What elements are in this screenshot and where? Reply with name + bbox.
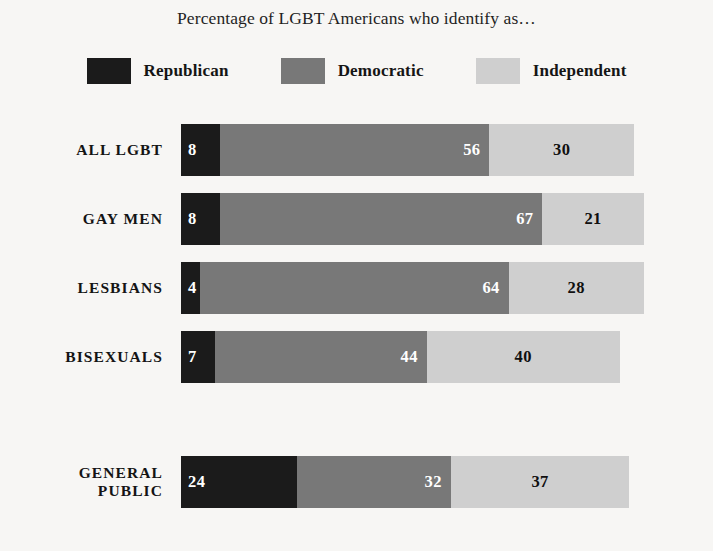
chart-legend: Republican Democratic Independent bbox=[0, 58, 713, 84]
bar-track: 243237 bbox=[181, 456, 629, 508]
legend-item-republican: Republican bbox=[87, 58, 229, 84]
bar-segment-independent: 37 bbox=[451, 456, 629, 508]
legend-swatch-republican bbox=[87, 58, 131, 84]
bar-segment-value: 56 bbox=[463, 140, 480, 160]
bar-segment-value: 24 bbox=[188, 472, 205, 492]
bar-row-label: LESBIANS bbox=[10, 279, 163, 297]
legend-swatch-independent bbox=[476, 58, 520, 84]
bar-segment-republican: 8 bbox=[181, 124, 220, 176]
bar-segment-value: 37 bbox=[451, 472, 629, 492]
legend-label-independent: Independent bbox=[533, 61, 627, 81]
bar-row-label: ALL LGBT bbox=[10, 141, 163, 159]
legend-item-independent: Independent bbox=[476, 58, 627, 84]
bar-row-label: GENERALPUBLIC bbox=[10, 464, 163, 501]
legend-swatch-democratic bbox=[281, 58, 325, 84]
bar-segment-value: 32 bbox=[425, 472, 442, 492]
legend-item-democratic: Democratic bbox=[281, 58, 424, 84]
bar-segment-independent: 21 bbox=[542, 193, 643, 245]
bar-segment-republican: 8 bbox=[181, 193, 220, 245]
legend-label-republican: Republican bbox=[144, 61, 229, 81]
bar-row: BISEXUALS74440 bbox=[0, 331, 713, 383]
bar-segment-republican: 4 bbox=[181, 262, 200, 314]
bar-row: GENERALPUBLIC243237 bbox=[0, 456, 713, 508]
bar-segment-value: 28 bbox=[509, 278, 644, 298]
bar-row-label: GAY MEN bbox=[10, 210, 163, 228]
bar-row: GAY MEN86721 bbox=[0, 193, 713, 245]
bar-segment-democratic: 64 bbox=[200, 262, 508, 314]
bar-segment-value: 7 bbox=[188, 347, 197, 367]
bar-track: 74440 bbox=[181, 331, 620, 383]
bar-track: 86721 bbox=[181, 193, 644, 245]
bar-segment-republican: 7 bbox=[181, 331, 215, 383]
bar-segment-democratic: 44 bbox=[215, 331, 427, 383]
bar-segment-democratic: 56 bbox=[220, 124, 490, 176]
bar-segment-value: 21 bbox=[542, 209, 643, 229]
bar-segment-value: 8 bbox=[188, 209, 197, 229]
bar-segment-independent: 28 bbox=[509, 262, 644, 314]
bar-segment-independent: 30 bbox=[489, 124, 634, 176]
bar-track: 46428 bbox=[181, 262, 644, 314]
bar-track: 85630 bbox=[181, 124, 634, 176]
chart-plot-area: ALL LGBT85630GAY MEN86721LESBIANS46428BI… bbox=[0, 118, 713, 548]
bar-row-label: BISEXUALS bbox=[10, 348, 163, 366]
chart-title: Percentage of LGBT Americans who identif… bbox=[0, 8, 713, 29]
bar-segment-value: 44 bbox=[401, 347, 418, 367]
bar-segment-value: 8 bbox=[188, 140, 197, 160]
bar-segment-value: 64 bbox=[482, 278, 499, 298]
bar-segment-democratic: 67 bbox=[220, 193, 543, 245]
legend-label-democratic: Democratic bbox=[338, 61, 424, 81]
bar-segment-independent: 40 bbox=[427, 331, 620, 383]
bar-segment-value: 30 bbox=[489, 140, 634, 160]
bar-segment-value: 40 bbox=[427, 347, 620, 367]
bar-row: LESBIANS46428 bbox=[0, 262, 713, 314]
bar-row: ALL LGBT85630 bbox=[0, 124, 713, 176]
bar-segment-democratic: 32 bbox=[297, 456, 451, 508]
bar-segment-value: 67 bbox=[516, 209, 533, 229]
bar-segment-value: 4 bbox=[188, 278, 197, 298]
bar-segment-republican: 24 bbox=[181, 456, 297, 508]
